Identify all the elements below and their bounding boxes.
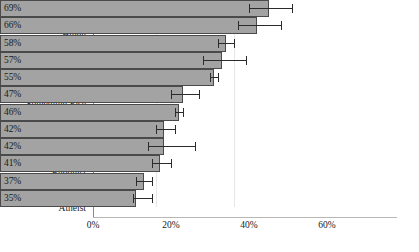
error-bar-cap-high: [175, 125, 176, 134]
x-tick-label: 40%: [240, 220, 257, 230]
error-bar-line: [156, 129, 175, 130]
error-bar-line: [152, 163, 171, 164]
error-bar-cap-low: [210, 73, 211, 82]
error-bar-line: [171, 94, 198, 95]
error-bar-cap-low: [133, 194, 134, 203]
bar-row: 35%: [0, 190, 304, 207]
error-bar-cap-high: [152, 177, 153, 186]
error-bar-cap-low: [136, 177, 137, 186]
bar-value-label: 42%: [4, 139, 21, 154]
error-bar-line: [218, 43, 234, 44]
error-bar-cap-high: [234, 39, 235, 48]
error-bar-cap-high: [183, 108, 184, 117]
x-tick-label: 60%: [318, 220, 335, 230]
bar: [0, 52, 222, 69]
bar-row: 42%: [0, 138, 304, 155]
bar-row: 47%: [0, 86, 304, 103]
bar-value-label: 47%: [4, 87, 21, 102]
error-bar-cap-high: [292, 4, 293, 13]
bar-value-label: 37%: [4, 174, 21, 189]
bar: [0, 155, 160, 172]
error-bar-cap-low: [175, 108, 176, 117]
bar-row: 58%: [0, 35, 304, 52]
x-axis-tick-labels: 0%20%40%60%: [0, 220, 419, 236]
bar-row: 57%: [0, 52, 304, 69]
error-bar-line: [210, 77, 218, 78]
bar-value-label: 66%: [4, 18, 21, 33]
bar: [0, 69, 214, 86]
error-bar-cap-high: [195, 142, 196, 151]
bar-row: 41%: [0, 155, 304, 172]
error-bar-cap-low: [218, 39, 219, 48]
bar-value-label: 42%: [4, 122, 21, 137]
bar: [0, 17, 257, 34]
error-bar-cap-low: [171, 90, 172, 99]
bar-value-label: 46%: [4, 105, 21, 120]
bar: [0, 0, 269, 17]
bar: [0, 86, 183, 103]
x-tick-label: 20%: [162, 220, 179, 230]
bar: [0, 121, 164, 138]
bar-row: 42%: [0, 121, 304, 138]
bar-row: 46%: [0, 104, 304, 121]
error-bar-cap-low: [156, 125, 157, 134]
error-bar-cap-high: [152, 194, 153, 203]
bar: [0, 138, 164, 155]
bar-value-label: 35%: [4, 191, 21, 206]
error-bar-cap-high: [199, 90, 200, 99]
x-axis-line: [93, 217, 397, 218]
x-tick-label: 0%: [87, 220, 100, 230]
error-bar-cap-low: [203, 56, 204, 65]
bar-value-label: 57%: [4, 53, 21, 68]
error-bar-line: [203, 60, 246, 61]
bar-value-label: 41%: [4, 156, 21, 171]
error-bar-cap-high: [281, 21, 282, 30]
error-bar-line: [175, 112, 183, 113]
bar-value-label: 58%: [4, 36, 21, 51]
bar-row: 66%: [0, 17, 304, 34]
error-bar-cap-high: [218, 73, 219, 82]
bar: [0, 173, 144, 190]
error-bar-line: [238, 25, 281, 26]
error-bar-cap-low: [148, 142, 149, 151]
bar-row: 55%: [0, 69, 304, 86]
error-bar-line: [136, 181, 152, 182]
error-bar-line: [133, 198, 152, 199]
bar-value-label: 55%: [4, 70, 21, 85]
error-bar-cap-low: [249, 4, 250, 13]
error-bar-line: [148, 146, 195, 147]
error-bar-cap-high: [246, 56, 247, 65]
error-bar-cap-low: [238, 21, 239, 30]
bar-row: 69%: [0, 0, 304, 17]
bar-series: 69%66%58%57%55%47%46%42%42%41%37%35%: [0, 0, 304, 207]
error-bar-line: [249, 8, 292, 9]
bar: [0, 104, 179, 121]
bar-value-label: 69%: [4, 1, 21, 16]
bar-row: 37%: [0, 173, 304, 190]
error-bar-cap-low: [152, 159, 153, 168]
horizontal-bar-chart: MormonHinduCatholicMuslimProtestantSomet…: [0, 0, 419, 252]
bar: [0, 35, 226, 52]
error-bar-cap-high: [171, 159, 172, 168]
